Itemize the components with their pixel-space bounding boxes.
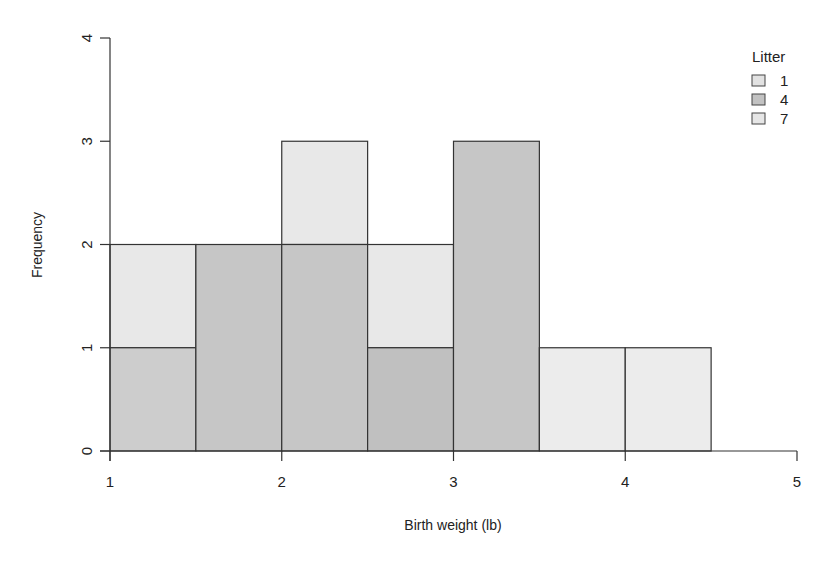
y-tick-label: 3 [78,137,95,145]
y-tick-label: 2 [78,240,95,248]
histogram-bar [196,245,282,452]
y-tick-label: 4 [78,34,95,42]
legend-title: Litter [752,48,785,65]
y-axis-title: Frequency [29,212,45,278]
y-tick-label: 0 [78,447,95,455]
y-tick-label: 1 [78,344,95,352]
legend-swatch [752,75,765,86]
histogram-bar [110,348,196,451]
x-tick-label: 5 [793,473,801,490]
histogram-bar [368,245,454,348]
histogram-bar [282,141,368,244]
legend-label: 4 [780,91,788,108]
histogram-bar [110,245,196,348]
histogram-bar [368,348,454,451]
legend-swatch [752,94,765,105]
histogram-bar [539,348,625,451]
x-tick-label: 4 [621,473,629,490]
legend-label: 1 [780,72,788,89]
legend: Litter 147 [752,48,788,127]
histogram-chart: 1234501234 Birth weight (lb) Frequency L… [0,0,830,563]
histogram-bar [625,348,711,451]
x-tick-label: 1 [106,473,114,490]
histogram-bars [110,141,711,451]
legend-label: 7 [780,110,788,127]
x-tick-label: 2 [278,473,286,490]
histogram-bar [454,141,540,451]
histogram-bar [282,245,368,452]
x-axis-title: Birth weight (lb) [404,517,501,533]
legend-swatch [752,113,765,124]
x-tick-label: 3 [449,473,457,490]
